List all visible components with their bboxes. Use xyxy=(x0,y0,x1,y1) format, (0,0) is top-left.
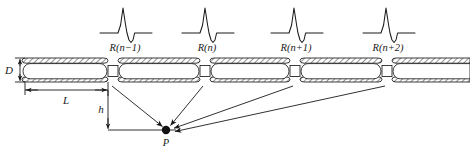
pipe-segment xyxy=(300,58,382,82)
waveform-r-n xyxy=(182,8,234,43)
waveform-r-n-plus-1 xyxy=(271,8,323,43)
waveform-label-r-n-plus-2: R(n+2) xyxy=(372,42,404,54)
waveform-label-r-n: R(n) xyxy=(197,42,217,54)
ray-from-joint-r-n-minus-1 xyxy=(112,86,163,127)
pipeline-reflection-diagram: R(n−1) R(n) R(n+1) R(n+2) xyxy=(0,0,470,152)
waveform-r-n-plus-2 xyxy=(363,8,415,43)
ray-from-joint-r-n-plus-2 xyxy=(175,86,385,132)
waveform-label-r-n-minus-1: R(n−1) xyxy=(109,42,141,54)
pipe-segment xyxy=(118,58,200,82)
pipe-joint xyxy=(290,66,300,77)
ray-group xyxy=(112,86,385,132)
dimension-label-l: L xyxy=(62,94,69,106)
waveform-group xyxy=(100,8,415,43)
pipe-joint xyxy=(108,66,118,77)
pipe-joint xyxy=(200,66,210,77)
waveform-r-n-minus-1 xyxy=(100,8,152,43)
dimension-label-h: h xyxy=(98,103,104,115)
pipe-joint xyxy=(382,66,392,77)
pipe-assembly xyxy=(22,58,470,82)
pipe-segment xyxy=(22,58,108,82)
dimension-label-d: D xyxy=(4,64,13,76)
figure-canvas: R(n−1) R(n) R(n+1) R(n+2) xyxy=(0,0,470,152)
waveform-label-r-n-plus-1: R(n+1) xyxy=(280,42,312,54)
observation-point-p xyxy=(162,126,170,134)
pipe-segment xyxy=(392,58,470,82)
pipe-segment xyxy=(210,58,290,82)
point-label-p: P xyxy=(162,137,170,148)
ray-from-joint-r-n-plus-1 xyxy=(174,86,293,128)
waveform-label-group: R(n−1) R(n) R(n+1) R(n+2) xyxy=(109,42,404,54)
